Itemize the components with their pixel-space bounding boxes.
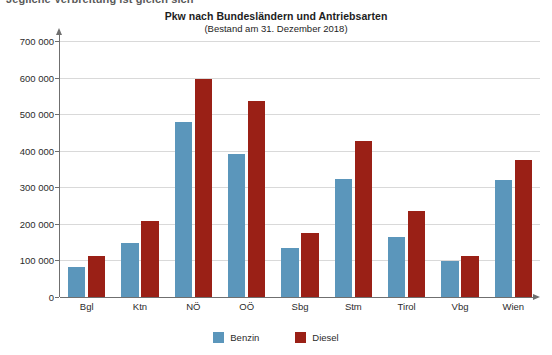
- bar-ktn-diesel: [141, 221, 159, 297]
- gridline: [60, 114, 540, 115]
- legend-item-diesel[interactable]: Diesel: [295, 332, 338, 343]
- bar-nö-diesel: [195, 79, 213, 297]
- y-axis-tick-label: 300 000: [2, 182, 54, 193]
- x-axis-tick-label: Tirol: [398, 301, 416, 312]
- legend-swatch-icon: [213, 332, 224, 343]
- y-axis-tick-label: 400 000: [2, 145, 54, 156]
- bar-sbg-benzin: [281, 248, 299, 297]
- bar-bgl-benzin: [68, 267, 86, 297]
- chart-legend: BenzinDiesel: [0, 332, 552, 343]
- gridline: [60, 151, 540, 152]
- gridline: [60, 224, 540, 225]
- bar-stm-benzin: [335, 179, 353, 297]
- x-axis-tick-label: Ktn: [133, 301, 147, 312]
- bar-nö-benzin: [175, 122, 193, 297]
- y-axis-tick-mark: [55, 297, 59, 298]
- y-axis-tick-label: 700 000: [2, 36, 54, 47]
- y-axis-tick-label: 200 000: [2, 218, 54, 229]
- gridline: [60, 187, 540, 188]
- x-axis-tick-label: Vbg: [452, 301, 469, 312]
- gridline: [60, 78, 540, 79]
- chart-container: Jegliche Verbreitung ist gleich sich Pkw…: [0, 0, 552, 355]
- bar-oö-benzin: [228, 154, 246, 297]
- bar-wien-benzin: [495, 180, 513, 297]
- bar-stm-diesel: [355, 141, 373, 297]
- legend-label: Benzin: [230, 332, 259, 343]
- x-axis-tick-label: Wien: [503, 301, 525, 312]
- x-axis-tick-label: Sbg: [292, 301, 309, 312]
- bar-ktn-benzin: [121, 243, 139, 297]
- bar-vbg-diesel: [461, 256, 479, 297]
- bar-tirol-diesel: [408, 211, 426, 297]
- y-axis-tick-label: 600 000: [2, 72, 54, 83]
- legend-label: Diesel: [312, 332, 338, 343]
- y-axis-tick-label: 0: [2, 292, 54, 303]
- legend-item-benzin[interactable]: Benzin: [213, 332, 259, 343]
- x-axis-tick-label: OÖ: [239, 301, 254, 312]
- x-axis-tick-label: Bgl: [80, 301, 94, 312]
- y-axis-tick-label: 100 000: [2, 255, 54, 266]
- bar-oö-diesel: [248, 101, 266, 297]
- x-axis-tick-label: Stm: [345, 301, 362, 312]
- bar-tirol-benzin: [388, 237, 406, 297]
- gridline: [60, 41, 540, 42]
- y-axis-tick-label: 500 000: [2, 109, 54, 120]
- bar-wien-diesel: [515, 160, 533, 297]
- bar-sbg-diesel: [301, 233, 319, 297]
- plot-area: [60, 41, 540, 297]
- clipped-caption: Jegliche Verbreitung ist gleich sich: [6, 0, 194, 5]
- bar-bgl-diesel: [88, 256, 106, 297]
- bar-vbg-benzin: [441, 261, 459, 297]
- x-axis-tick-label: NÖ: [186, 301, 200, 312]
- y-axis-arrowhead-icon: [56, 28, 62, 35]
- chart-title: Pkw nach Bundesländern und Antriebsarten: [0, 10, 552, 22]
- legend-swatch-icon: [295, 332, 306, 343]
- x-axis-line: [60, 297, 534, 298]
- chart-subtitle: (Bestand am 31. Dezember 2018): [0, 23, 552, 34]
